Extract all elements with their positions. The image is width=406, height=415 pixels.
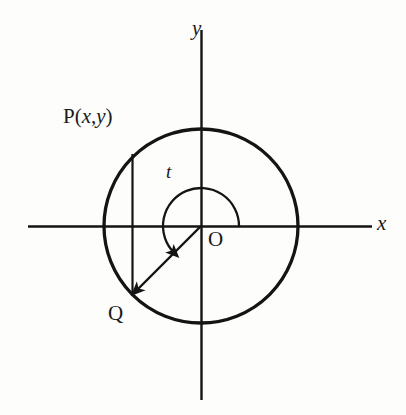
y-axis-label: y [192,18,201,39]
point-p-y: y [96,104,105,128]
point-p-label: P(x,y) [63,106,113,127]
point-q-label: Q [108,303,123,324]
figure-container: y x P(x,y) t O Q [0,0,406,415]
radius-segment-OQ [136,226,201,291]
point-p-x: x [82,104,91,128]
point-p-letter: P [63,104,75,128]
point-p-close-paren: ) [106,104,113,128]
x-axis-label: x [377,213,386,234]
circle-diagram-svg [0,0,406,415]
angle-t-label: t [166,162,171,181]
origin-label: O [208,229,223,250]
point-p-open-paren: ( [75,104,82,128]
